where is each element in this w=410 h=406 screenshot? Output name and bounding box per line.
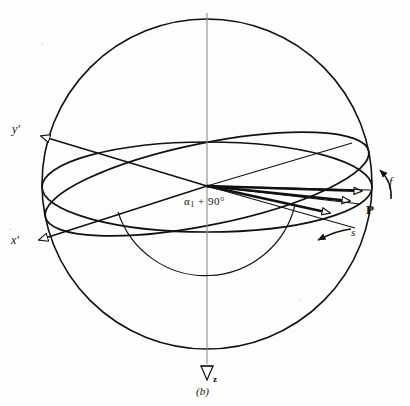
axis-label-x-prime: x': [11, 234, 19, 246]
axis-label-z: z: [213, 375, 217, 384]
paper-speck: [300, 300, 301, 301]
angle-label-subscript: 1: [190, 200, 195, 209]
curved-arrow-left-icon: [318, 229, 351, 240]
point-label-p: P: [366, 203, 374, 216]
angle-label: α1 + 90°: [184, 196, 225, 209]
rotation-label-s: s: [351, 227, 355, 238]
angle-label-plus: +: [198, 195, 205, 207]
paper-speck: [42, 44, 43, 45]
y-prime-axis-line: [41, 136, 207, 186]
axis-label-y-prime: y': [12, 123, 20, 135]
rotation-label-f: f: [389, 176, 392, 188]
angle-label-value: 90°: [208, 195, 225, 207]
paper-speck: [211, 20, 212, 21]
y-prime-axis-group: [41, 136, 207, 186]
z-arrowhead-icon: [201, 366, 213, 380]
paper-speck: [10, 229, 11, 230]
x-prime-axis-continuation: [207, 143, 352, 186]
figure-container: y' x' z P f s α1 + 90° (b): [0, 0, 410, 406]
figure-caption: (b): [196, 386, 209, 397]
s-rotation-arrow-group: [318, 229, 351, 240]
